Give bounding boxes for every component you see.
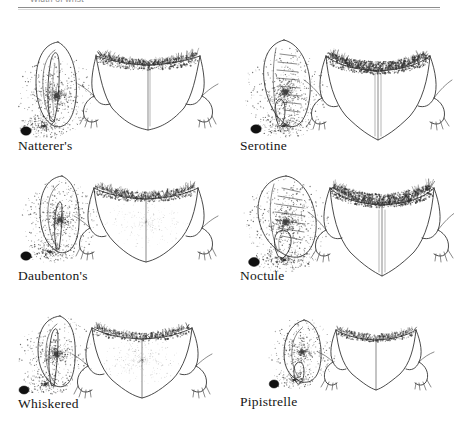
clipped-column-5: –– [345, 0, 354, 3]
membrane-figure-whiskered [72, 314, 212, 402]
species-label-serotine: Serotine [240, 138, 287, 154]
species-label-noctule: Noctule [240, 268, 285, 284]
membrane-figure-natterers [78, 38, 218, 138]
species-label-whiskered: Whiskered [18, 396, 79, 412]
plate-page: Width of wrist –– –– –– –– –– –– [0, 0, 454, 436]
clipped-column-2: –– [205, 0, 214, 3]
membrane-figure-serotine [304, 36, 452, 144]
header-divider-rule [18, 7, 440, 8]
membrane-figure-daubentons [74, 172, 218, 268]
species-label-natterers: Natterer's [18, 138, 72, 154]
clipped-column-3: –– [250, 0, 259, 3]
clipped-column-6: –– [410, 0, 419, 3]
species-label-pipistrelle: Pipistrelle [240, 394, 298, 410]
species-label-daubentons: Daubenton's [18, 268, 88, 284]
clipped-column-1: –– [160, 0, 169, 3]
clipped-header-label: Width of wrist [30, 0, 84, 4]
membrane-figure-pipistrelle [318, 318, 428, 394]
membrane-figure-noctule [308, 170, 454, 280]
clipped-column-4: –– [295, 0, 304, 3]
